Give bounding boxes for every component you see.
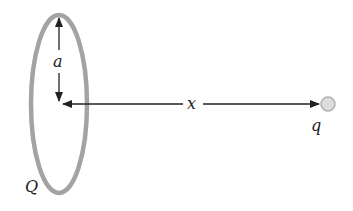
point-charge	[321, 97, 335, 111]
ring-charge-label: Q	[25, 177, 38, 196]
distance-label: x	[187, 94, 196, 113]
ring-charge-diagram: a x q Q	[0, 0, 353, 211]
charge-label: q	[311, 116, 321, 135]
radius-label: a	[53, 52, 63, 71]
